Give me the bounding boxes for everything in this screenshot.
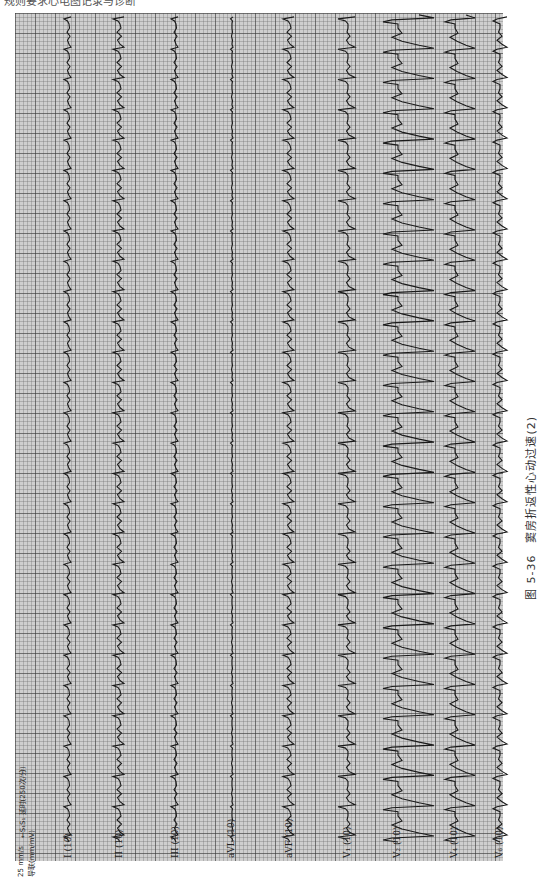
lead-label-avl: aVL (10) (226, 819, 236, 858)
lead-label-iii: III (10) (170, 826, 180, 858)
ecg-trace-v4 (445, 15, 475, 842)
ecg-trace-ii (113, 17, 124, 842)
ecg-trace-v1 (338, 17, 355, 842)
figure-caption: 图 5-36 窦房折返性心动过速(2) (522, 416, 538, 600)
lead-label-v6: V₆ (10) (494, 827, 504, 858)
ecg-trace-i (64, 17, 71, 842)
ecg-trace-iii (171, 17, 178, 842)
lead-label-v2: V₂ (10) (392, 827, 402, 858)
ecg-trace-avl (231, 17, 234, 842)
ecg-traces (0, 0, 548, 883)
lead-label-avf: aVF (10) (284, 819, 294, 858)
lead-label-i: I (10) (63, 833, 73, 858)
lead-label-v1: V₁ (10) (342, 827, 352, 858)
ecg-trace-v2 (383, 15, 434, 842)
ecg-trace-v6 (493, 17, 507, 842)
pacing-annotation: ←S₁S₁ 延时(250次/分) (17, 766, 27, 838)
ecg-trace-avf (283, 17, 294, 842)
lead-label-ii: II (10) (114, 830, 124, 858)
gain-label: 导联(mm/mV) (26, 830, 36, 877)
lead-label-v4: V₄ (10) (449, 827, 459, 858)
paper-speed-label: 25 mm/s (17, 846, 25, 877)
